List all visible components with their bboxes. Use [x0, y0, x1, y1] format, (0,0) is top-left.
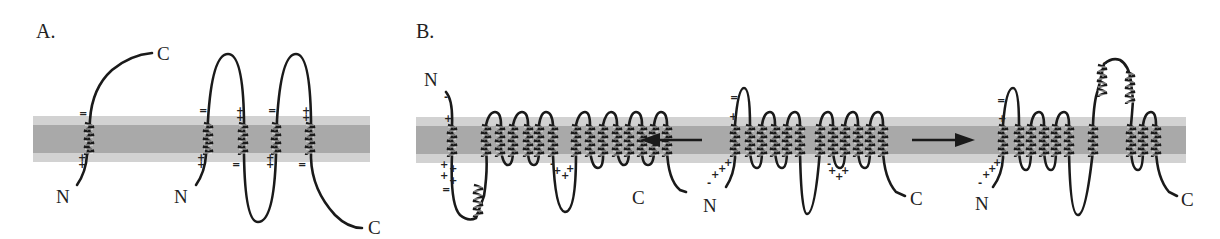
svg-text:+: + — [197, 159, 205, 170]
c-terminus-label: C — [1181, 189, 1194, 210]
panel-a-label: A. — [36, 20, 55, 42]
c-terminus-label: C — [910, 188, 923, 209]
svg-text:=: = — [199, 105, 207, 116]
svg-text:+: + — [440, 170, 448, 181]
svg-text:-: - — [1103, 57, 1107, 68]
charge-plus: + — [78, 159, 86, 170]
svg-text:+: + — [444, 113, 452, 124]
n-terminus-label: N — [424, 69, 438, 90]
svg-text:=: = — [997, 95, 1005, 106]
c-terminus-label: C — [632, 187, 645, 208]
n-terminus-label: N — [975, 193, 989, 214]
svg-text:-: - — [978, 177, 982, 188]
svg-text:+: + — [835, 171, 843, 182]
panel-b: B. - + + + + — [416, 20, 1194, 219]
svg-text:+: + — [982, 169, 990, 180]
svg-text:=: = — [268, 105, 276, 116]
svg-text:+: + — [998, 113, 1006, 124]
svg-text:+: + — [440, 159, 448, 170]
svg-text:+: + — [236, 112, 244, 123]
svg-text:=: = — [232, 159, 240, 170]
membrane-topology-figure: A. = + + N C = + + = + + + — [0, 0, 1220, 239]
panel-b-label: B. — [416, 20, 434, 42]
charge-minus: = — [79, 108, 87, 119]
svg-text:-: - — [444, 91, 448, 102]
n-terminus-label: N — [703, 195, 717, 216]
svg-text:-: - — [707, 177, 711, 188]
svg-text:=: = — [298, 159, 306, 170]
svg-text:+: + — [711, 169, 719, 180]
panel-a: A. = + + N C = + + = + + + — [33, 20, 381, 238]
svg-text:+: + — [449, 163, 457, 174]
svg-text:+: + — [302, 112, 310, 123]
c-terminus-label: C — [157, 43, 170, 64]
svg-text:=: = — [730, 92, 738, 103]
svg-text:+: + — [729, 111, 737, 122]
n-terminus-label: N — [174, 186, 188, 207]
c-terminus-label: C — [368, 217, 381, 238]
svg-text:+: + — [266, 159, 274, 170]
n-terminus-label: N — [56, 186, 70, 207]
svg-text:+: + — [561, 170, 569, 181]
svg-text:=: = — [442, 184, 450, 195]
